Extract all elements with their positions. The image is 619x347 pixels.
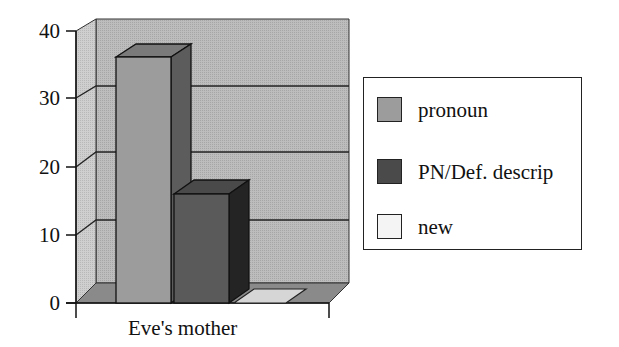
legend: pronoun PN/Def. descrip new [363,77,582,250]
legend-swatch-pronoun [377,97,402,122]
y-tick-label-10: 10 [20,225,60,246]
legend-swatch-new [377,214,402,239]
y-axis [66,31,76,318]
bar-pn-def-descrip [174,180,249,303]
legend-label: pronoun [418,99,488,121]
legend-item-pronoun: pronoun [377,97,488,122]
legend-label: new [418,216,453,238]
x-category-label: Eve's mother [128,317,237,339]
legend-item-pn-def-descrip: PN/Def. descrip [377,159,553,184]
side-wall [76,19,96,303]
legend-swatch-pn-def-descrip [377,159,402,184]
y-tick-label-40: 40 [20,21,60,42]
y-tick-label-20: 20 [20,157,60,178]
y-tick-label-0: 0 [20,293,60,314]
legend-label: PN/Def. descrip [418,161,553,183]
legend-item-new: new [377,214,453,239]
y-tick-label-30: 30 [20,88,60,109]
